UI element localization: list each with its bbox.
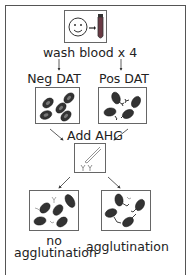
arrow-neg-to-ahg bbox=[50, 129, 63, 140]
arrow-to-no-agglutination bbox=[59, 177, 70, 188]
arrow-to-agglutination bbox=[108, 177, 120, 188]
arrow-pos-to-ahg bbox=[114, 129, 128, 140]
